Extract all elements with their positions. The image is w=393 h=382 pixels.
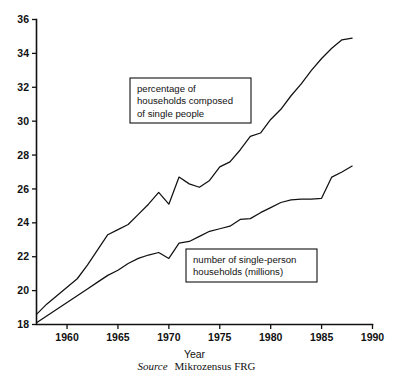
- y-tick-label: 28: [17, 149, 29, 161]
- x-tick-label: 1970: [157, 331, 181, 343]
- x-tick-label: 1975: [208, 331, 232, 343]
- upper-series-label: percentage ofhouseholds composedof singl…: [130, 78, 251, 123]
- y-tick-label: 24: [17, 216, 29, 228]
- x-tick-label: 1985: [310, 331, 334, 343]
- y-axis-tick-labels: 18202224262830323436: [17, 13, 29, 330]
- annotation-line: households composed: [137, 95, 233, 106]
- lower-series-label: number of single-personhouseholds (milli…: [186, 249, 317, 282]
- line-chart: 18202224262830323436 1960196519701975198…: [0, 0, 393, 382]
- annotation-line: of single people: [137, 108, 204, 119]
- y-tick-label: 20: [17, 284, 29, 296]
- tick-marks: [32, 20, 373, 330]
- annotation-line: number of single-person: [193, 254, 296, 265]
- figure-container: 18202224262830323436 1960196519701975198…: [0, 0, 393, 382]
- series-line-number: [37, 166, 353, 323]
- x-tick-label: 1965: [106, 331, 130, 343]
- annotation-line: households (millions): [193, 266, 283, 277]
- y-tick-label: 26: [17, 183, 29, 195]
- y-tick-label: 30: [17, 115, 29, 127]
- y-tick-label: 18: [17, 318, 29, 330]
- annotation-boxes: percentage ofhouseholds composedof singl…: [130, 78, 317, 282]
- x-tick-label: 1960: [55, 331, 79, 343]
- y-tick-label: 34: [17, 47, 29, 59]
- y-tick-label: 32: [17, 81, 29, 93]
- y-tick-label: 22: [17, 250, 29, 262]
- x-axis-tick-labels: 1960196519701975198019851990: [55, 331, 384, 343]
- source-note: SourceMikrozensus FRG: [0, 360, 393, 372]
- x-axis-title: Year: [184, 348, 206, 360]
- annotation-line: percentage of: [137, 83, 196, 94]
- x-tick-label: 1980: [259, 331, 283, 343]
- y-tick-label: 36: [17, 13, 29, 25]
- source-label: Source: [137, 360, 167, 372]
- x-tick-label: 1990: [361, 331, 385, 343]
- source-value: Mikrozensus FRG: [175, 360, 256, 372]
